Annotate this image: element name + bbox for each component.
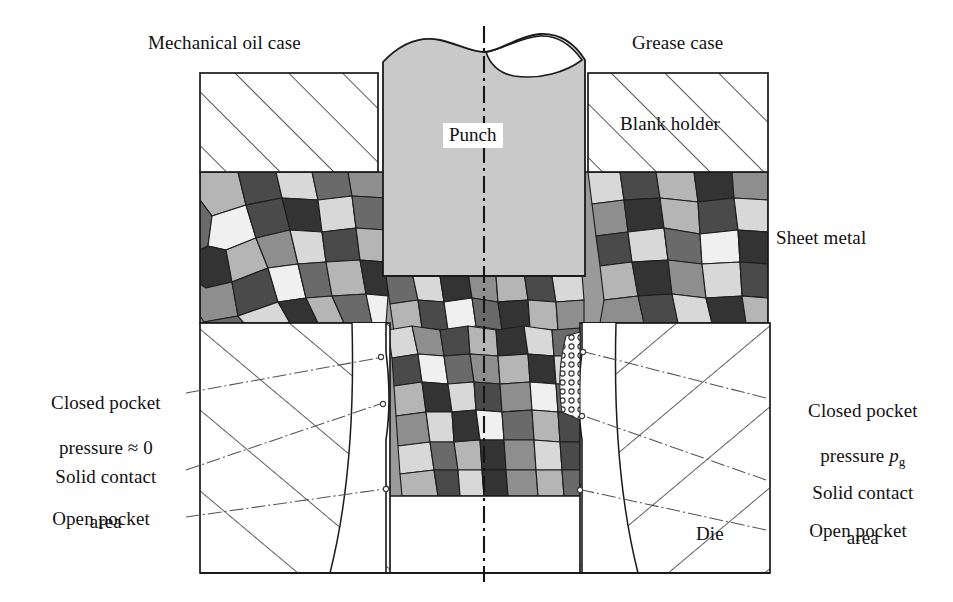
label-sheet-metal: Sheet metal bbox=[776, 227, 866, 249]
solid-contact-right-line1: Solid contact bbox=[812, 482, 913, 503]
closed-pocket-left-line1: Closed pocket bbox=[51, 392, 160, 413]
solid-contact-left-line1: Solid contact bbox=[55, 466, 156, 487]
label-grease-case: Grease case bbox=[632, 32, 723, 54]
label-die: Die bbox=[696, 523, 724, 545]
label-open-pocket-left: Open pocket bbox=[16, 508, 186, 530]
label-blank-holder: Blank holder bbox=[620, 113, 720, 135]
label-open-pocket-right: Open pocket bbox=[768, 520, 948, 542]
label-punch: Punch bbox=[443, 123, 503, 148]
label-mechanical-oil-case: Mechanical oil case bbox=[148, 32, 301, 54]
blank-holder-left bbox=[200, 73, 378, 172]
closed-pocket-right-line1: Closed pocket bbox=[808, 400, 917, 421]
label-closed-pocket-right: Closed pocket pressure pg bbox=[768, 378, 948, 469]
figure-canvas: Mechanical oil case Grease case Punch Bl… bbox=[0, 0, 953, 602]
